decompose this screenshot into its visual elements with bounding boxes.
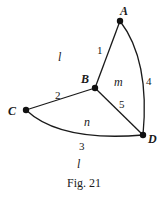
face-label-n: n	[84, 115, 90, 129]
face-label-m: m	[114, 75, 123, 89]
edge-label-3: 3	[79, 140, 85, 152]
edge-4	[120, 21, 144, 135]
edge-2	[26, 88, 95, 110]
vertex-label-B: B	[80, 72, 89, 86]
edge-label-1: 1	[97, 44, 103, 56]
figure-caption: Fig. 21	[67, 176, 101, 190]
edge-label-5: 5	[119, 98, 125, 110]
vertex-A	[117, 18, 123, 24]
edge-label-4: 4	[146, 75, 152, 87]
planar-graph-figure: A B C D 1 2 3 4 5 l m n l Fig. 21	[0, 0, 168, 197]
vertex-D	[140, 132, 146, 138]
vertex-B	[92, 85, 98, 91]
face-label-l-bottom: l	[77, 157, 81, 171]
vertex-label-D: D	[147, 132, 157, 146]
vertex-label-A: A	[119, 4, 128, 18]
vertex-label-C: C	[8, 104, 17, 118]
vertex-C	[23, 107, 29, 113]
edge-label-2: 2	[55, 89, 61, 101]
edge-5	[95, 88, 143, 135]
face-label-l-top: l	[58, 50, 62, 64]
